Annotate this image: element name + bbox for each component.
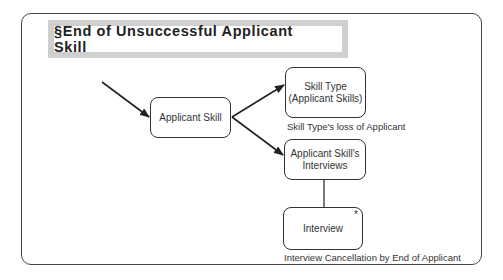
- asterisk-marker-icon: *: [354, 209, 358, 221]
- node-interviews-line1: Applicant Skill's: [290, 148, 359, 160]
- interview-caption: Interview Cancellation by End of Applica…: [284, 252, 461, 263]
- node-applicant-skill-interviews[interactable]: Applicant Skill's Interviews: [284, 139, 366, 180]
- incoming-arrow: [102, 82, 149, 117]
- node-skill-type[interactable]: Skill Type (Applicant Skills): [285, 67, 366, 118]
- node-interview-label: Interview: [303, 223, 343, 235]
- node-skill-type-line1: Skill Type: [304, 81, 347, 93]
- arrow-to-interviews: [232, 117, 283, 155]
- node-applicant-skill-label: Applicant Skill: [159, 112, 221, 124]
- node-interviews-line2: Interviews: [302, 160, 347, 172]
- edges-layer: [0, 0, 503, 280]
- node-interview[interactable]: Interview *: [283, 207, 363, 250]
- node-skill-type-line2: (Applicant Skills): [289, 93, 363, 105]
- node-applicant-skill[interactable]: Applicant Skill: [150, 97, 231, 138]
- skill-type-caption: Skill Type's loss of Applicant: [287, 121, 405, 132]
- arrow-to-skill-type: [232, 85, 284, 117]
